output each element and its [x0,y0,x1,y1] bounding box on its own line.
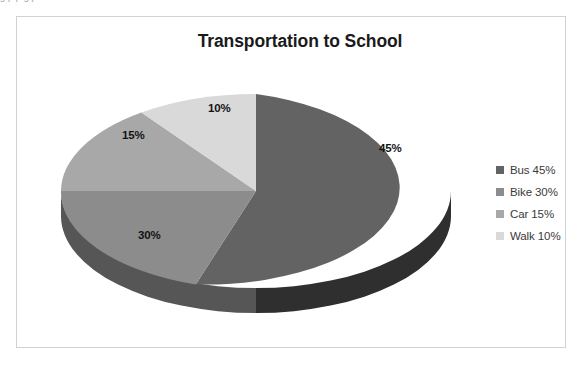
legend-item-bike[interactable]: Bike 30% [496,181,588,203]
pie-chart-plot-area: 45% 30% 15% 10% [17,17,567,349]
legend-label-car: Car 15% [510,208,554,220]
pie-data-label-bike: 30% [138,229,160,241]
legend-label-walk: Walk 10% [510,230,561,242]
chart-frame: Transportation to School [16,16,566,348]
legend-item-car[interactable]: Car 15% [496,203,588,225]
legend-label-bus: Bus 45% [510,164,555,176]
pie-data-label-car: 15% [122,129,144,141]
clipped-text-above-chart: g p p g p [0,0,588,3]
legend-swatch-bus-icon [496,166,504,174]
legend-swatch-walk-icon [496,232,504,240]
pie-chart-graphic [17,17,567,349]
pie-data-label-bus: 45% [379,142,401,154]
legend-swatch-bike-icon [496,188,504,196]
legend-item-walk[interactable]: Walk 10% [496,225,588,247]
legend-item-bus[interactable]: Bus 45% [496,159,588,181]
legend-swatch-car-icon [496,210,504,218]
chart-legend: Bus 45% Bike 30% Car 15% Walk 10% [496,159,588,247]
legend-label-bike: Bike 30% [510,186,558,198]
pie-data-label-walk: 10% [208,102,230,114]
pie-top-face [61,94,400,285]
